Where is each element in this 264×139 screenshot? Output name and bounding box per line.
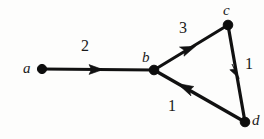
graph-canvas (0, 0, 264, 139)
edge-d-b-line (154, 70, 245, 122)
edge-weight-a-b: 2 (81, 38, 89, 54)
weighted-directed-graph-figure: a b c d 2 3 1 1 (0, 0, 264, 139)
node-label-c: c (223, 3, 230, 18)
node-a-dot[interactable] (37, 64, 46, 73)
edge-d-b (154, 70, 245, 122)
node-b-dot[interactable] (149, 65, 159, 75)
edge-a-b (42, 65, 154, 75)
node-d-dot[interactable] (240, 117, 250, 127)
node-c-dot[interactable] (223, 20, 233, 30)
node-label-b: b (142, 50, 150, 65)
node-label-a: a (23, 61, 31, 76)
edge-weight-b-c: 3 (179, 20, 187, 36)
edge-weight-d-b: 1 (168, 98, 176, 114)
node-label-d: d (252, 113, 260, 128)
edge-b-c (154, 25, 228, 70)
edge-weight-c-d: 1 (245, 56, 253, 72)
edge-c-d (228, 25, 245, 122)
